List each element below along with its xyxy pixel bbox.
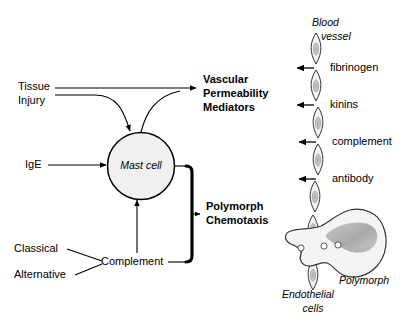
- endothelial-cell-4: [313, 144, 323, 175]
- endothelial-cell-5: [310, 181, 320, 212]
- label-mediator-complement: complement: [332, 135, 392, 148]
- label-polymorph-chemotaxis-line1: Polymorph: [206, 200, 263, 213]
- label-ige: IgE: [25, 158, 42, 171]
- label-blood-vessel-line2: vessel: [321, 30, 351, 42]
- label-alternative: Alternative: [14, 268, 66, 281]
- label-mediator-antibody: antibody: [332, 172, 374, 185]
- label-vascular-line1: Vascular: [203, 73, 248, 86]
- edge-tissue-injury-to-mast-cell: [55, 95, 130, 131]
- polymorph-cell-shape: [285, 209, 386, 277]
- label-endothelial-cells-line1: Endothelial: [282, 288, 334, 300]
- label-mast-cell: Mast cell: [109, 159, 173, 171]
- label-tissue-injury-line2: Injury: [18, 94, 45, 107]
- label-tissue-injury-line1: Tissue: [18, 80, 50, 93]
- label-mediator-kinins: kinins: [330, 98, 358, 111]
- endothelial-cell-1: [311, 33, 321, 64]
- label-polymorph-chemotaxis-line2: Chemotaxis: [206, 214, 268, 227]
- edge-classical-to-complement: [67, 249, 102, 261]
- label-polymorph: Polymorph: [339, 274, 389, 286]
- label-classical: Classical: [14, 242, 58, 255]
- edge-mast-cell-to-vascular: [141, 91, 180, 132]
- output-bracket: [186, 166, 200, 262]
- edge-alternative-to-complement: [75, 264, 102, 275]
- diagram-canvas: Tissue Injury IgE Classical Alternative …: [0, 0, 407, 328]
- label-mediator-fibrinogen: fibrinogen: [330, 61, 378, 74]
- label-vascular-line2: Permeability: [203, 87, 268, 100]
- label-blood-vessel-line1: Blood: [312, 16, 339, 28]
- label-endothelial-cells-line2: cells: [282, 302, 344, 314]
- endothelial-cell-2: [311, 70, 321, 101]
- label-vascular-line3: Mediators: [203, 101, 255, 114]
- label-complement-node: Complement: [101, 255, 163, 268]
- endothelial-cell-3: [313, 107, 323, 138]
